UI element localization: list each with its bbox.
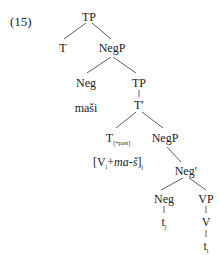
- node-t-bar: T′: [134, 99, 144, 111]
- node-tp: TP: [132, 77, 146, 89]
- node-neg: Neg: [76, 77, 96, 89]
- trace-j: tj: [161, 216, 166, 230]
- trace-i: ti: [203, 240, 208, 254]
- tree-branches: [0, 0, 219, 255]
- node-negp: NegP: [99, 42, 126, 54]
- node-t: T: [59, 42, 66, 54]
- node-neg-bar: Neg′: [175, 165, 198, 177]
- node-neg-lower: Neg: [154, 193, 174, 205]
- node-v: V: [202, 216, 211, 228]
- node-t-past: T[+past]: [106, 132, 130, 146]
- node-tp-root: TP: [82, 11, 96, 23]
- moved-complex-head: [Vi+ma-š]j: [93, 156, 143, 170]
- node-vp: VP: [198, 193, 213, 205]
- lexical-masi: maši: [75, 102, 98, 114]
- node-negp-lower: NegP: [152, 132, 179, 144]
